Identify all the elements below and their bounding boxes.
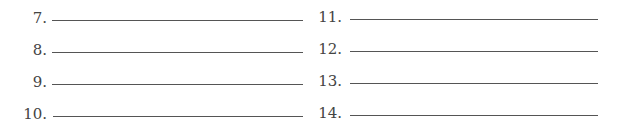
blank-line[interactable] (53, 116, 303, 117)
blank-line[interactable] (52, 20, 303, 21)
blank-line[interactable] (52, 84, 303, 85)
blank-line[interactable] (350, 115, 598, 116)
item-number: 13. (312, 72, 342, 90)
item-number: 10. (17, 105, 47, 123)
blank-line[interactable] (350, 19, 598, 20)
item-number: 14. (312, 104, 342, 122)
item-number: 12. (312, 40, 342, 58)
blank-line[interactable] (350, 83, 598, 84)
item-number: 7. (17, 9, 47, 27)
blank-line[interactable] (52, 52, 303, 53)
item-number: 8. (17, 41, 47, 59)
blank-line[interactable] (350, 51, 598, 52)
item-number: 11. (312, 8, 342, 26)
item-number: 9. (17, 73, 47, 91)
